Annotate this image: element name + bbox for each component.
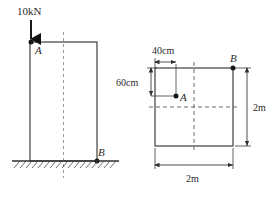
point-b-label-elevation: B: [98, 146, 105, 158]
point-a-label-elevation: A: [34, 44, 42, 56]
dim-height-2m-label: 2m: [253, 102, 266, 113]
column-outline: [30, 42, 97, 161]
point-a-label-section: A: [179, 91, 187, 103]
engineering-diagram: 10kN A B A B 40cm: [0, 0, 278, 198]
point-a-marker-elevation: [29, 40, 34, 45]
cross-section-panel: A B 40cm 60cm 2m 2m: [116, 45, 266, 184]
dim-60cm-label: 60cm: [116, 77, 138, 88]
diagram-canvas: 10kN A B A B 40cm: [0, 0, 278, 198]
point-b-marker-section: [231, 66, 236, 71]
load-label: 10kN: [17, 5, 42, 17]
dim-40cm-label: 40cm: [152, 45, 174, 56]
point-a-marker-section: [174, 94, 179, 99]
point-b-label-section: B: [230, 52, 237, 64]
ground-hatching: [14, 161, 116, 168]
dim-width-2m-label: 2m: [186, 173, 199, 184]
elevation-panel: 10kN A B: [12, 5, 119, 178]
